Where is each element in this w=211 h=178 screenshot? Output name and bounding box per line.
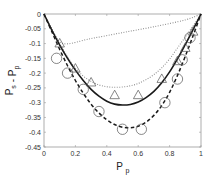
circle-marker bbox=[117, 124, 127, 134]
y-axis-label: Ps - Pp bbox=[4, 66, 21, 96]
x-axis-label: Pp bbox=[116, 161, 129, 175]
y-tick-label: -0.4 bbox=[29, 129, 41, 136]
circle-marker bbox=[94, 106, 104, 116]
y-label-text: Ps - Pp bbox=[4, 66, 21, 96]
y-tick-label: -0.15 bbox=[25, 55, 41, 62]
circle-marker bbox=[51, 53, 61, 63]
circle-marker bbox=[160, 97, 170, 107]
circle-marker bbox=[62, 68, 72, 78]
x-tick-label: 0.6 bbox=[133, 150, 143, 157]
y-tick-label: -0.05 bbox=[25, 25, 41, 32]
y-tick-label: -0.45 bbox=[25, 144, 41, 151]
x-tick-label: 0 bbox=[42, 150, 46, 157]
chart: 0-0.05-0.1-0.15-0.2-0.25-0.3-0.35-0.4-0.… bbox=[0, 0, 211, 178]
dashed-curve bbox=[44, 14, 201, 128]
triangle-markers bbox=[55, 27, 198, 99]
x-tick-label: 1 bbox=[199, 150, 203, 157]
y-tick-label: -0.3 bbox=[29, 99, 41, 106]
y-tick-label: 0 bbox=[37, 11, 41, 18]
x-axis-ticks: 00.20.40.60.81 bbox=[42, 14, 203, 157]
x-label-text: P bbox=[116, 161, 123, 172]
y-tick-label: -0.1 bbox=[29, 40, 41, 47]
circle-markers bbox=[51, 32, 195, 134]
plot-area-border bbox=[44, 14, 201, 147]
plot-frame bbox=[44, 14, 201, 147]
y-tick-label: -0.35 bbox=[25, 114, 41, 121]
x-tick-label: 0.4 bbox=[102, 150, 112, 157]
circle-marker bbox=[136, 124, 146, 134]
y-tick-label: -0.25 bbox=[25, 84, 41, 91]
y-label-group: Ps - Pp bbox=[4, 66, 21, 96]
y-tick-label: -0.2 bbox=[29, 70, 41, 77]
circle-marker bbox=[78, 84, 88, 94]
triangle-marker bbox=[133, 90, 143, 99]
upper-dotted-line bbox=[44, 14, 201, 44]
series-layer bbox=[44, 14, 201, 134]
triangle-marker bbox=[110, 90, 120, 99]
x-label-subscript: p bbox=[126, 167, 130, 175]
x-tick-label: 0.2 bbox=[71, 150, 81, 157]
x-tick-label: 0.8 bbox=[165, 150, 175, 157]
solid-curve bbox=[44, 14, 201, 105]
